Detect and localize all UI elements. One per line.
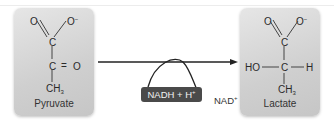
nad-plus-label: NAD+ (214, 95, 238, 106)
bonds-and-arrows (0, 0, 334, 125)
arrow-head-icon (230, 59, 238, 65)
cofactor-curved-arrow (148, 59, 197, 90)
nadh-badge: NADH + H+ (141, 87, 202, 102)
